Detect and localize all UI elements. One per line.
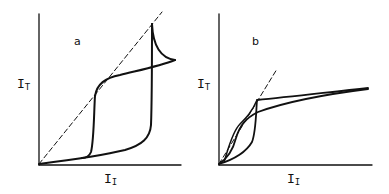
panel-a-xlabel: II: [104, 172, 117, 187]
panel-b-ylabel: IT: [197, 77, 210, 92]
panel-a-ylabel: IT: [17, 77, 30, 92]
panel-a-cusp: [152, 24, 175, 60]
panel-a-ylabel-sub: T: [25, 82, 30, 92]
figure-canvas: [0, 0, 389, 194]
panel-a-letter: a: [74, 36, 81, 47]
panel-b-xlabel-sub: I: [295, 177, 300, 187]
panel-a-xlabel-main: I: [104, 171, 112, 186]
panel-b-ylabel-sub: T: [205, 82, 210, 92]
panel-b-letter: b: [252, 36, 259, 47]
panel-b-xlabel-main: I: [287, 171, 295, 186]
panel-a-ylabel-main: I: [17, 76, 25, 91]
panel-a-upper-branch: [82, 60, 175, 158]
panel-b: [219, 14, 372, 165]
panel-b-ylabel-main: I: [197, 76, 205, 91]
panel-a: [39, 12, 181, 165]
panel-b-xlabel: II: [287, 172, 300, 187]
panel-a-xlabel-sub: I: [112, 177, 117, 187]
